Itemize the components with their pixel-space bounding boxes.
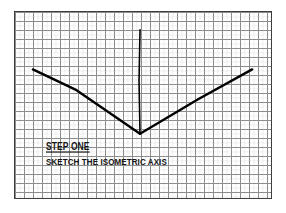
step-caption: STEP ONE SKETCH THE ISOMETRIC AXIS: [46, 142, 167, 166]
caption-title: STEP ONE: [46, 142, 167, 153]
isometric-axis-drawing: [15, 12, 271, 198]
graph-paper-subgrid: [15, 12, 271, 198]
graph-paper-sheet: [14, 11, 272, 199]
vertical-axis: [139, 30, 140, 134]
left-isometric-arm: [33, 69, 140, 133]
right-isometric-arm: [140, 69, 252, 133]
sketch-page: STEP ONE SKETCH THE ISOMETRIC AXIS: [0, 0, 286, 213]
caption-subtitle: SKETCH THE ISOMETRIC AXIS: [46, 158, 167, 168]
